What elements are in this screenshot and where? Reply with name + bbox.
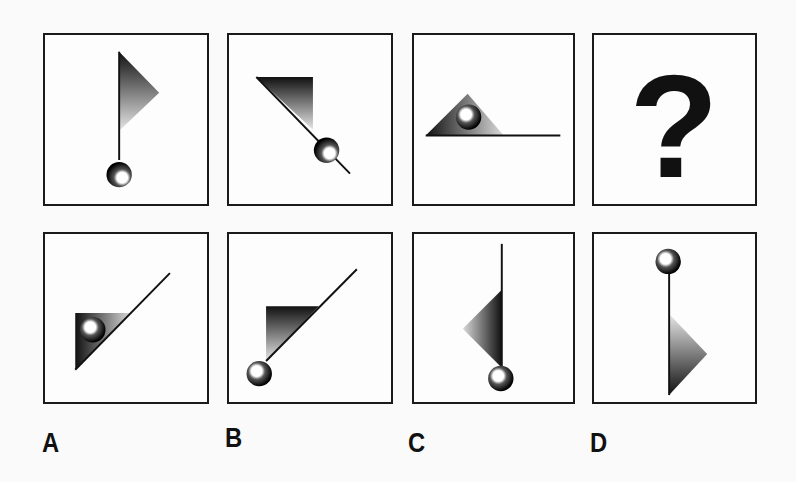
flag-figure-icon: [229, 234, 391, 402]
option-cell-d[interactable]: [592, 232, 757, 404]
flag-figure-icon: [45, 35, 207, 204]
flag-figure-icon: [229, 35, 391, 204]
question-cell-4: ?: [592, 33, 757, 206]
question-cell-2: [227, 33, 393, 206]
question-cell-1: [43, 33, 209, 206]
option-cell-b[interactable]: [227, 232, 393, 404]
option-label-d: D: [590, 427, 607, 459]
question-mark-icon: ?: [594, 35, 755, 204]
question-cell-3: [412, 33, 575, 206]
option-label-a: A: [42, 427, 59, 459]
flag-figure-icon: [594, 234, 755, 402]
option-cell-a[interactable]: [43, 232, 209, 404]
option-label-c: C: [408, 427, 425, 459]
option-label-b: B: [225, 422, 242, 454]
flag-figure-icon: [414, 234, 573, 402]
flag-figure-icon: [414, 35, 573, 204]
option-cell-c[interactable]: [412, 232, 575, 404]
svg-text:?: ?: [629, 45, 718, 204]
flag-figure-icon: [45, 234, 207, 402]
